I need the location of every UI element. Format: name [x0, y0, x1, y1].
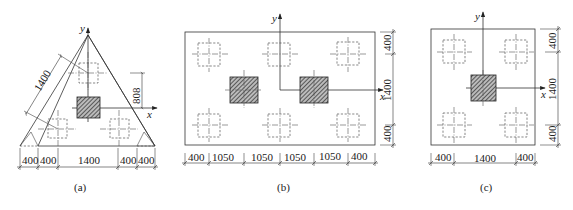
pile-b-top-left [192, 38, 228, 72]
right-dimension-chain-b: 400 1400 400 [380, 29, 396, 148]
dim-c-0: 400 [435, 151, 452, 163]
slant-dim-label: 1400 [31, 68, 53, 93]
dim-a-3: 400 [120, 154, 137, 166]
corner-right-chamfer [137, 132, 155, 146]
dim-c-2: 400 [517, 151, 534, 163]
y-axis-label-c: y [474, 10, 480, 22]
dim-c-right-2: 400 [546, 125, 558, 142]
pile-b-top-right [330, 37, 366, 72]
dim-b-4: 1050 [319, 150, 342, 162]
pile-b-bottom-left [192, 108, 228, 142]
bottom-dimension-chain-b: 400 1050 1050 1050 1050 400 [182, 150, 378, 166]
caption-c: (c) [480, 181, 493, 194]
dim-c-right-1: 1400 [546, 78, 558, 101]
pile-cap-diagrams: y x 1400 [0, 0, 573, 210]
dim-a-4: 400 [138, 154, 155, 166]
column-hatched [77, 97, 100, 118]
bottom-dimension-chain-c: 400 1400 400 [428, 151, 538, 166]
pile-bottom-right [100, 110, 138, 146]
dim-b-right-1: 1400 [381, 79, 393, 102]
dim-b-3: 1050 [284, 151, 307, 163]
column-c [471, 75, 496, 101]
figure-c-square-cap: y x [428, 10, 561, 194]
dim-a-2: 1400 [78, 154, 101, 166]
x-axis-label: x [146, 108, 152, 120]
pile-c-top-left [437, 34, 472, 70]
vertical-dim-label: 808 [130, 87, 142, 104]
dim-b-right-2: 400 [381, 125, 393, 142]
pile-b-bottom-middle [262, 108, 298, 142]
dim-a-1: 400 [40, 154, 57, 166]
y-axis-label-b: y [271, 12, 277, 24]
corner-left-chamfer [20, 132, 38, 146]
pile-c-bottom-left [437, 107, 472, 143]
dim-b-5: 400 [351, 150, 368, 162]
dim-b-right-0: 400 [381, 34, 393, 51]
dim-c-1: 1400 [474, 152, 497, 164]
dim-b-0: 400 [188, 151, 205, 163]
pile-c-bottom-right [499, 107, 534, 143]
bottom-dimension-chain: 400 400 1400 400 400 [17, 148, 158, 170]
vertical-dimension: 808 [130, 73, 145, 108]
caption-b: (b) [277, 181, 290, 194]
dim-a-0: 400 [22, 154, 39, 166]
caption-a: (a) [74, 181, 87, 194]
dim-c-right-0: 400 [546, 32, 558, 49]
pile-c-top-right [499, 34, 534, 70]
y-axis-label: y [79, 22, 85, 34]
right-dimension-chain-c: 400 1400 400 [540, 26, 561, 148]
pile-b-bottom-right [330, 108, 366, 142]
dim-b-2: 1050 [251, 151, 274, 163]
pile-bottom-left [38, 110, 76, 146]
dim-b-1: 1050 [212, 151, 235, 163]
figure-b-rectangular-cap: y x [182, 12, 396, 194]
figure-a-triangular-cap: y x 1400 [17, 22, 158, 194]
